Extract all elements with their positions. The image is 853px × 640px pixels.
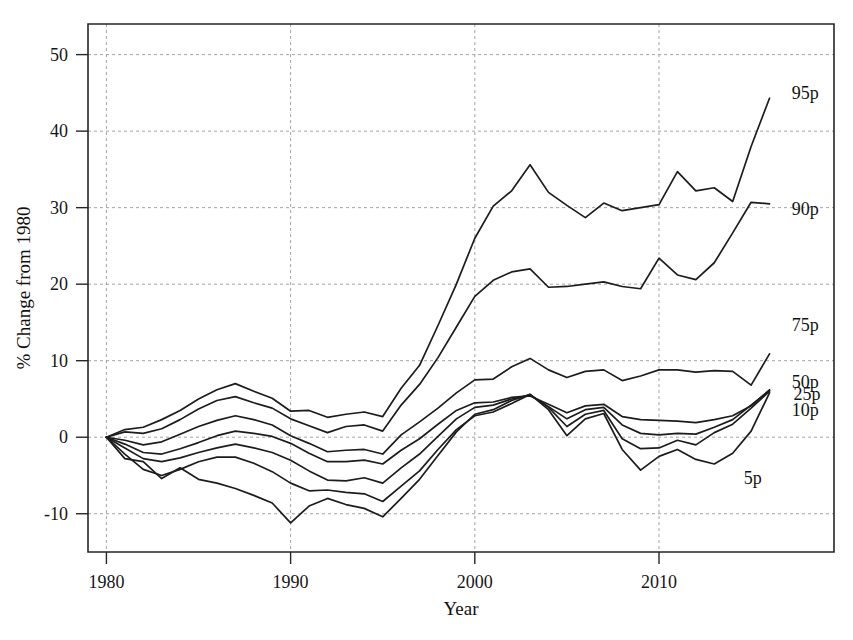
x-tick-labels: 1980199020002010	[88, 572, 677, 592]
chart-figure: -1001020304050 1980199020002010 95p90p75…	[0, 0, 853, 640]
y-axis-title: % Change from 1980	[13, 206, 34, 369]
tick-marks	[76, 55, 659, 564]
x-tick-label: 2010	[641, 572, 677, 592]
series-lines	[106, 98, 769, 523]
x-tick-label: 1980	[88, 572, 124, 592]
axis-frame	[88, 24, 834, 552]
y-tick-label: 10	[50, 351, 68, 371]
y-tick-label: 40	[50, 121, 68, 141]
series-line-5p	[106, 393, 769, 523]
grid-lines	[88, 24, 834, 552]
series-label-95p: 95p	[792, 83, 819, 103]
series-end-labels: 95p90p75p50p25p10p5p	[744, 83, 821, 488]
series-label-90p: 90p	[792, 199, 819, 219]
series-label-10p: 10p	[792, 400, 819, 420]
y-tick-labels: -1001020304050	[44, 45, 68, 524]
y-tick-label: 0	[59, 427, 68, 447]
percentile-change-line-chart: -1001020304050 1980199020002010 95p90p75…	[0, 0, 853, 640]
series-label-75p: 75p	[792, 315, 819, 335]
series-line-90p	[106, 202, 769, 437]
y-tick-label: 30	[50, 198, 68, 218]
series-label-5p: 5p	[744, 468, 762, 488]
x-axis-title: Year	[443, 598, 479, 619]
y-tick-label: -10	[44, 504, 68, 524]
y-tick-label: 20	[50, 274, 68, 294]
y-tick-label: 50	[50, 45, 68, 65]
x-tick-label: 2000	[457, 572, 493, 592]
plot-border	[88, 24, 834, 552]
x-tick-label: 1990	[273, 572, 309, 592]
